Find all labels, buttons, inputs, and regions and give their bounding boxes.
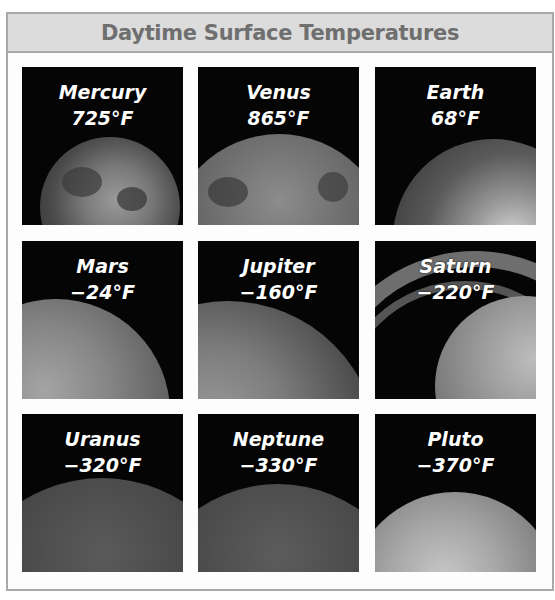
mars-image <box>22 299 170 399</box>
planet-label: Earth 68°F <box>375 79 536 131</box>
venus-feature <box>208 177 248 207</box>
planet-tile-saturn: Saturn −220°F <box>375 241 536 399</box>
planet-temperature: 725°F <box>22 105 183 131</box>
planet-name: Mercury <box>22 79 183 105</box>
page-title: Daytime Surface Temperatures <box>101 21 459 45</box>
planet-label: Jupiter −160°F <box>198 253 359 305</box>
planet-name: Earth <box>375 79 536 105</box>
neptune-image <box>198 484 359 572</box>
pluto-image <box>375 492 536 572</box>
planet-label: Saturn −220°F <box>375 253 536 305</box>
planet-name: Mars <box>22 253 183 279</box>
mercury-crater <box>117 187 147 211</box>
planet-label: Uranus −320°F <box>22 426 183 478</box>
planet-temperature: −24°F <box>22 279 183 305</box>
uranus-image <box>22 478 183 572</box>
planet-name: Saturn <box>375 253 536 279</box>
planet-label: Mercury 725°F <box>22 79 183 131</box>
planet-temperature: −370°F <box>375 452 536 478</box>
planet-temperature: −160°F <box>198 279 359 305</box>
planet-tile-mercury: Mercury 725°F <box>22 67 183 225</box>
planet-temperature: −220°F <box>375 279 536 305</box>
planet-label: Neptune −330°F <box>198 426 359 478</box>
planet-name: Venus <box>198 79 359 105</box>
planet-label: Mars −24°F <box>22 253 183 305</box>
planet-temperature: 68°F <box>375 105 536 131</box>
mercury-craters <box>62 167 102 197</box>
mercury-image <box>40 137 180 225</box>
planet-temperature: −330°F <box>198 452 359 478</box>
planet-tile-venus: Venus 865°F <box>198 67 359 225</box>
planet-name: Pluto <box>375 426 536 452</box>
panel-header: Daytime Surface Temperatures <box>8 14 552 53</box>
planet-name: Uranus <box>22 426 183 452</box>
earth-image <box>393 139 536 225</box>
planet-tile-pluto: Pluto −370°F <box>375 414 536 572</box>
venus-feature <box>318 172 348 202</box>
planet-tile-jupiter: Jupiter −160°F <box>198 241 359 399</box>
planet-temperature: −320°F <box>22 452 183 478</box>
jupiter-image <box>198 301 359 399</box>
planet-label: Pluto −370°F <box>375 426 536 478</box>
planet-name: Neptune <box>198 426 359 452</box>
planet-label: Venus 865°F <box>198 79 359 131</box>
planet-tile-earth: Earth 68°F <box>375 67 536 225</box>
planet-name: Jupiter <box>198 253 359 279</box>
planet-tile-neptune: Neptune −330°F <box>198 414 359 572</box>
planet-tile-mars: Mars −24°F <box>22 241 183 399</box>
planet-tile-uranus: Uranus −320°F <box>22 414 183 572</box>
planet-temperature: 865°F <box>198 105 359 131</box>
